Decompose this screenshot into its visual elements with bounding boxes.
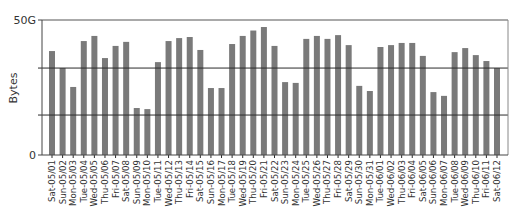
bar-Thu-05/13: [176, 38, 182, 155]
bar-Tue-05/11: [155, 62, 161, 155]
x-category-label: Thu-05/13: [174, 160, 184, 205]
bar-Thu-05/20: [250, 31, 256, 155]
x-category-label: Sat-05/01: [47, 160, 57, 202]
bar-Mon-05/24: [293, 83, 299, 155]
bar-Sat-05/01: [49, 51, 55, 155]
y-tick-label: 0: [29, 149, 36, 162]
x-category-label: Thu-05/27: [322, 160, 332, 205]
x-category-label: Mon-05/10: [142, 160, 152, 206]
bar-Sat-06/12: [494, 68, 500, 155]
bar-Tue-05/04: [81, 41, 87, 155]
bar-Thu-06/10: [473, 55, 479, 155]
x-category-label: Fri-05/14: [185, 160, 195, 198]
y-tick-label: 50G: [13, 14, 36, 27]
bars-group: [49, 27, 500, 155]
y-axis-title: Bytes: [7, 72, 20, 103]
x-category-label: Wed-06/09: [460, 160, 470, 207]
bar-Wed-05/19: [240, 36, 246, 155]
x-category-label: Sun-05/30: [354, 160, 364, 204]
x-category-label: Thu-06/10: [471, 160, 481, 205]
bar-chart: 050G Sat-05/01Sun-05/02Mon-05/03Tue-05/0…: [0, 0, 522, 224]
bar-Wed-05/26: [314, 36, 320, 155]
bar-Fri-06/04: [409, 43, 415, 155]
x-category-label: Thu-05/06: [100, 160, 110, 205]
x-category-label: Tue-06/08: [450, 160, 460, 204]
bar-Thu-05/27: [324, 39, 330, 155]
bar-Fri-06/11: [483, 61, 489, 155]
bar-Mon-06/07: [441, 96, 447, 155]
bar-Sat-05/08: [123, 42, 129, 155]
bar-Wed-06/02: [388, 45, 394, 155]
bar-Fri-05/21: [261, 27, 267, 155]
bar-Wed-05/12: [166, 41, 172, 155]
x-category-label: Tue-06/01: [375, 160, 385, 204]
x-category-label: Sun-06/06: [428, 160, 438, 204]
bar-Sun-05/16: [208, 88, 214, 155]
bar-Thu-05/06: [102, 58, 108, 155]
x-category-label: Tue-05/18: [227, 160, 237, 204]
bar-Tue-05/18: [229, 44, 235, 155]
bar-Fri-05/28: [335, 35, 341, 155]
x-category-label: Sun-05/23: [280, 160, 290, 204]
x-category-labels-group: Sat-05/01Sun-05/02Mon-05/03Tue-05/04Wed-…: [47, 160, 502, 207]
x-category-label: Wed-06/02: [386, 160, 396, 207]
x-category-label: Wed-05/19: [238, 160, 248, 207]
x-category-label: Wed-05/12: [164, 160, 174, 207]
x-category-label: Fri-05/21: [259, 160, 269, 198]
x-category-label: Tue-05/11: [153, 160, 163, 204]
x-category-label: Wed-05/05: [89, 160, 99, 207]
bar-Fri-05/14: [187, 37, 193, 155]
bar-Mon-05/03: [70, 87, 76, 155]
x-category-label: Tue-05/04: [79, 160, 89, 204]
x-category-label: Sat-06/05: [418, 160, 428, 202]
x-category-label: Sat-06/12: [492, 160, 502, 202]
x-category-label: Fri-05/07: [111, 160, 121, 198]
bar-Sat-06/05: [420, 56, 426, 155]
chart-canvas: 050G Sat-05/01Sun-05/02Mon-05/03Tue-05/0…: [0, 0, 522, 224]
bar-Thu-06/03: [399, 43, 405, 155]
bar-Mon-05/17: [219, 88, 225, 155]
x-category-label: Mon-06/07: [439, 160, 449, 206]
x-category-label: Fri-06/11: [481, 160, 491, 198]
bar-Sun-05/02: [60, 68, 66, 155]
x-category-label: Mon-05/17: [217, 160, 227, 206]
bar-Mon-05/10: [144, 109, 150, 155]
bar-Sat-05/29: [346, 45, 352, 155]
x-category-label: Sun-05/16: [206, 160, 216, 204]
x-category-label: Tue-05/25: [301, 160, 311, 204]
x-category-label: Sat-05/15: [195, 160, 205, 202]
bar-Tue-05/25: [303, 39, 309, 155]
x-category-label: Sun-05/09: [132, 160, 142, 204]
bar-Wed-06/09: [462, 48, 468, 155]
x-category-label: Sun-05/02: [58, 160, 68, 204]
bar-Fri-05/07: [113, 46, 119, 155]
bar-Wed-05/05: [91, 36, 97, 155]
bar-Sat-05/22: [272, 46, 278, 155]
bar-Sun-05/30: [356, 86, 362, 155]
x-category-label: Wed-05/26: [312, 160, 322, 207]
x-category-label: Thu-06/03: [397, 160, 407, 205]
bar-Tue-06/01: [377, 47, 383, 155]
x-category-label: Mon-05/31: [365, 160, 375, 206]
x-category-label: Sat-05/29: [344, 160, 354, 202]
x-category-label: Fri-05/28: [333, 160, 343, 198]
bar-Sat-05/15: [197, 50, 203, 155]
bar-Mon-05/31: [367, 91, 373, 155]
x-category-label: Sat-05/08: [121, 160, 131, 202]
bar-Sun-06/06: [430, 92, 436, 155]
x-category-label: Mon-05/03: [68, 160, 78, 206]
x-category-label: Sat-05/22: [270, 160, 280, 202]
x-category-label: Fri-06/04: [407, 160, 417, 198]
x-category-label: Mon-05/24: [291, 160, 301, 206]
bar-Sun-05/23: [282, 82, 288, 155]
x-category-label: Thu-05/20: [248, 160, 258, 205]
